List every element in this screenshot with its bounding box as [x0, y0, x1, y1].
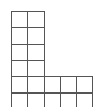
grid-cell [27, 44, 44, 61]
grid-cell [27, 27, 44, 44]
grid-cell [27, 93, 44, 108]
grid-cell [27, 11, 44, 28]
grid-cell [44, 76, 61, 93]
grid-cell [11, 93, 28, 108]
grid-cell [76, 93, 93, 108]
grid-cell [11, 76, 28, 93]
grid-cell [11, 60, 28, 77]
grid-cell [27, 60, 44, 77]
grid-cell [11, 44, 28, 61]
grid-cell [27, 76, 44, 93]
l-shaped-grid [0, 0, 99, 107]
grid-cell [76, 76, 93, 93]
grid-cell [11, 27, 28, 44]
grid-cell [60, 76, 77, 93]
grid-cell [60, 93, 77, 108]
grid-cell [11, 11, 28, 28]
grid-cell [44, 93, 61, 108]
